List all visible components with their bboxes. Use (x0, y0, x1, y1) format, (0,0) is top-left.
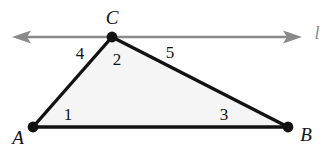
vertex-dot-A (28, 122, 39, 133)
geometry-figure: C A B 4 2 5 1 3 l (0, 0, 330, 152)
vertex-dot-B (283, 122, 294, 133)
figure-canvas (0, 0, 330, 152)
vertex-dot-C (107, 32, 118, 43)
line-l (12, 31, 302, 44)
